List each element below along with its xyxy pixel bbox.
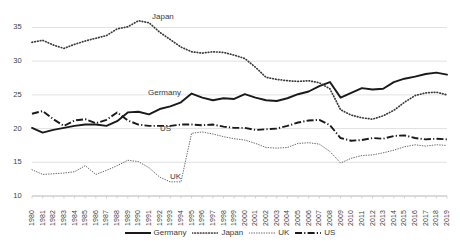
legend-item-germany[interactable]: Germany — [125, 229, 187, 237]
x-axis-tick-label: 2000 — [241, 200, 248, 226]
series-line-germany — [32, 73, 447, 133]
x-axis-tick-label: 1981 — [39, 200, 46, 226]
legend-item-us[interactable]: US — [295, 229, 335, 237]
series-label-japan: Japan — [152, 12, 174, 21]
x-axis-tick-label: 2002 — [262, 200, 269, 226]
series-label-germany: Germany — [148, 88, 181, 97]
x-axis-tick-label: 2015 — [400, 200, 407, 226]
x-axis-tick-label: 1985 — [81, 200, 88, 226]
legend-label: Japan — [221, 229, 243, 237]
x-axis-tick-label: 2019 — [443, 200, 450, 226]
line-chart: 101520253035 198019811982198319841985198… — [0, 0, 460, 249]
x-axis-tick-label: 1990 — [134, 200, 141, 226]
x-axis-tick-label: 1987 — [102, 200, 109, 226]
x-axis-tick-label: 1984 — [71, 200, 78, 226]
x-axis-tick-label: 1996 — [198, 200, 205, 226]
x-axis-tick-label: 1998 — [220, 200, 227, 226]
x-axis-tick-label: 2010 — [347, 200, 354, 226]
y-axis-tick-label: 10 — [4, 191, 22, 200]
x-axis-tick-label: 1986 — [92, 200, 99, 226]
series-label-us: US — [160, 124, 171, 133]
x-axis-tick-label: 2009 — [337, 200, 344, 226]
x-axis-tick-label: 1980 — [28, 200, 35, 226]
x-axis-tick-label: 2001 — [251, 200, 258, 226]
y-axis-tick-label: 25 — [4, 90, 22, 99]
legend-label: US — [324, 229, 335, 237]
x-axis-tick-label: 1993 — [166, 200, 173, 226]
x-axis-tick-label: 2011 — [358, 200, 365, 226]
legend-item-japan[interactable]: Japan — [192, 229, 243, 237]
x-axis-tick-label: 1994 — [177, 200, 184, 226]
x-axis-tick-label: 1997 — [209, 200, 216, 226]
legend-item-uk[interactable]: UK — [249, 229, 289, 237]
chart-legend: GermanyJapanUKUS — [0, 229, 460, 237]
legend-label: UK — [278, 229, 289, 237]
x-axis-tick-label: 2014 — [390, 200, 397, 226]
x-axis-tick-label: 2006 — [305, 200, 312, 226]
legend-label: Germany — [154, 229, 187, 237]
x-axis-tick-label: 2008 — [326, 200, 333, 226]
x-axis-tick-label: 1995 — [188, 200, 195, 226]
legend-swatch-us — [295, 229, 321, 237]
x-axis-tick-label: 1992 — [156, 200, 163, 226]
x-axis-tick-label: 2017 — [422, 200, 429, 226]
x-axis-tick-label: 2013 — [379, 200, 386, 226]
x-axis-tick-label: 1988 — [113, 200, 120, 226]
x-axis-tick-label: 2003 — [273, 200, 280, 226]
series-line-uk — [32, 132, 447, 182]
x-axis-tick-label: 1983 — [60, 200, 67, 226]
x-axis-tick-label: 1991 — [145, 200, 152, 226]
series-line-japan — [32, 21, 447, 119]
y-axis-tick-label: 35 — [4, 22, 22, 31]
legend-swatch-japan — [192, 229, 218, 237]
legend-swatch-uk — [249, 229, 275, 237]
x-axis-tick-label: 2018 — [432, 200, 439, 226]
x-axis-tick-label: 1989 — [124, 200, 131, 226]
legend-swatch-germany — [125, 229, 151, 237]
x-axis-tick-label: 2005 — [294, 200, 301, 226]
x-axis-tick-label: 2016 — [411, 200, 418, 226]
x-axis-tick-label: 2007 — [315, 200, 322, 226]
y-axis-tick-label: 20 — [4, 124, 22, 133]
x-axis-tick-label: 2004 — [283, 200, 290, 226]
x-axis-tick-label: 1999 — [230, 200, 237, 226]
y-axis-tick-label: 30 — [4, 56, 22, 65]
series-label-uk: UK — [170, 172, 181, 181]
x-axis-tick-label: 2012 — [369, 200, 376, 226]
x-axis-tick-label: 1982 — [49, 200, 56, 226]
y-axis-tick-label: 15 — [4, 157, 22, 166]
